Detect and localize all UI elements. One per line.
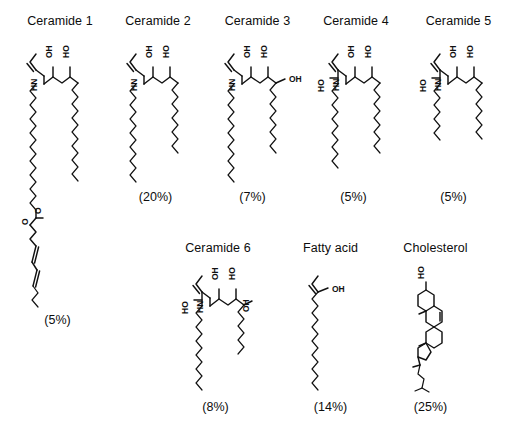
atom-label-hn: HN: [227, 79, 237, 91]
structure-fatty-acid: OH: [288, 266, 378, 401]
atom-label-ho-alpha: HO: [418, 79, 428, 92]
structure-percent-ceramide-6: (8%): [168, 400, 263, 414]
structure-title-ceramide-1: Ceramide 1: [10, 14, 110, 28]
structure-percent-fatty-acid: (14%): [283, 400, 378, 414]
atom-label-oh-1: OH: [346, 45, 356, 58]
atom-label-ho-alpha: HO: [316, 79, 326, 92]
atom-label-oh-1: OH: [448, 45, 458, 58]
structure-ceramide-1: HN OH HO O O: [10, 40, 115, 310]
atom-label-oh-1: OH: [44, 45, 54, 58]
structure-percent-cholesterol: (25%): [383, 400, 478, 414]
atom-label-oh-2: OH: [289, 74, 302, 84]
atom-label-ho-1: HO: [161, 45, 171, 58]
lipid-structure-figure: Ceramide 1 HN OH HO O O: [0, 0, 523, 444]
atom-label-ho-1: HO: [363, 45, 373, 58]
structure-ceramide-3: HN OH HO OH: [208, 40, 308, 190]
structure-title-ceramide-2: Ceramide 2: [108, 14, 208, 28]
atom-label-hn: HN: [433, 79, 443, 91]
atom-label-hn: HN: [195, 301, 205, 313]
structure-title-ceramide-6: Ceramide 6: [168, 241, 268, 255]
atom-label-hn: HN: [29, 79, 39, 91]
atom-label-ho-1: HO: [227, 267, 237, 280]
structure-ceramide-2: HN OH HO: [110, 40, 210, 190]
structure-title-ceramide-3: Ceramide 3: [205, 14, 310, 28]
atom-label-oh-1: OH: [210, 267, 220, 280]
atom-label-oh-2: OH: [241, 299, 251, 312]
structure-ceramide-5: HN HO OH HO: [408, 40, 508, 190]
atom-label-ho-1: HO: [465, 45, 475, 58]
atom-label-oh-1: OH: [144, 45, 154, 58]
structure-cholesterol: HO: [390, 266, 485, 401]
atom-label-ho-alpha: HO: [180, 301, 190, 314]
structure-title-cholesterol: Cholesterol: [383, 241, 488, 255]
structure-percent-ceramide-5: (5%): [406, 190, 501, 204]
structure-ceramide-6: HN HO OH HO OH: [172, 266, 277, 401]
structure-percent-ceramide-1: (5%): [10, 313, 105, 327]
atom-label-oh: OH: [332, 284, 345, 294]
structure-percent-ceramide-3: (7%): [205, 190, 300, 204]
structure-title-fatty-acid: Fatty acid: [283, 241, 378, 255]
atom-label-ho: HO: [416, 266, 426, 279]
atom-label-ho-1: HO: [61, 45, 71, 58]
atom-label-ester-o: O: [20, 218, 30, 225]
structure-percent-ceramide-4: (5%): [306, 190, 401, 204]
structure-ceramide-4: HN HO OH HO: [308, 40, 408, 190]
structure-title-ceramide-4: Ceramide 4: [306, 14, 406, 28]
atom-label-ester-carbonyl-o: O: [33, 207, 43, 214]
atom-label-hn: HN: [129, 79, 139, 91]
structure-title-ceramide-5: Ceramide 5: [406, 14, 511, 28]
structure-percent-ceramide-2: (20%): [108, 190, 203, 204]
atom-label-ho-1: HO: [259, 45, 269, 58]
atom-label-hn: HN: [331, 79, 341, 91]
atom-label-oh-1: OH: [242, 45, 252, 58]
